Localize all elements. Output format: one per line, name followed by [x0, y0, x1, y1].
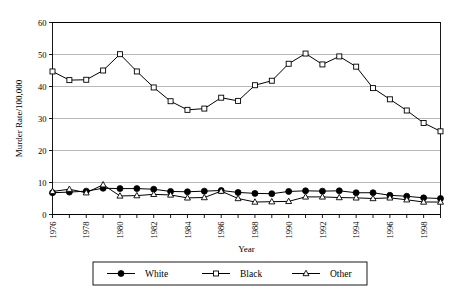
y-tick-label-60: 60 [38, 18, 47, 28]
datapoint-white-1989 [269, 191, 275, 197]
x-tick-label-1984: 1984 [183, 221, 193, 239]
y-axis-title: Murder Rate/100,000 [14, 79, 24, 157]
datapoint-black-1985 [202, 106, 207, 111]
x-tick-label-1976: 1976 [48, 222, 58, 239]
x-axis-title: Year [238, 244, 255, 254]
chart-figure: 0102030405060197619781980198219841986198… [0, 0, 449, 300]
datapoint-white-1981 [134, 186, 140, 192]
y-tick-label-40: 40 [38, 82, 47, 92]
x-tick-label-1998: 1998 [419, 222, 429, 239]
legend-label-white: White [145, 269, 168, 279]
datapoint-black-1976 [50, 69, 55, 74]
x-tick-label-1982: 1982 [149, 222, 159, 239]
x-tick-label-1990: 1990 [284, 222, 294, 239]
datapoint-white-1980 [117, 186, 123, 192]
x-axis: 1976197819801982198419861988199019921994… [48, 215, 441, 239]
y-tick-label-50: 50 [38, 50, 47, 60]
datapoint-other-1991 [303, 194, 309, 199]
datapoint-black-1989 [269, 78, 274, 83]
x-tick-label-1980: 1980 [115, 222, 125, 239]
datapoint-black-1984 [185, 107, 190, 112]
datapoint-white-1990 [286, 188, 292, 194]
datapoint-black-1987 [236, 98, 241, 103]
y-tick-label-0: 0 [42, 210, 46, 220]
datapoint-other-1992 [319, 194, 325, 199]
datapoint-white-1985 [201, 188, 207, 194]
series-black [50, 51, 443, 134]
datapoint-white-1988 [252, 190, 258, 196]
datapoint-black-1997 [404, 108, 409, 113]
datapoint-black-1992 [320, 62, 325, 67]
murder-rate-line-chart: 0102030405060197619781980198219841986198… [0, 0, 449, 300]
datapoint-black-1994 [354, 64, 359, 69]
legend-marker-black [214, 271, 219, 276]
datapoint-black-1978 [84, 77, 89, 82]
x-tick-label-1992: 1992 [318, 222, 328, 239]
datapoint-black-1990 [286, 61, 291, 66]
datapoint-black-1999 [438, 129, 443, 134]
x-tick-label-1986: 1986 [216, 222, 226, 239]
datapoint-black-1981 [134, 69, 139, 74]
legend-label-other: Other [330, 269, 352, 279]
datapoint-black-1991 [303, 51, 308, 56]
datapoint-white-1993 [336, 188, 342, 194]
y-tick-label-10: 10 [38, 178, 47, 188]
datapoint-black-1979 [101, 68, 106, 73]
datapoint-black-1995 [371, 86, 376, 91]
y-tick-label-20: 20 [38, 146, 47, 156]
y-axis: 0102030405060 [38, 18, 53, 220]
datapoint-black-1986 [219, 95, 224, 100]
y-tick-label-30: 30 [38, 114, 47, 124]
legend-marker-white [118, 271, 124, 277]
datapoint-black-1996 [387, 97, 392, 102]
datapoint-black-1980 [117, 52, 122, 57]
legend-label-black: Black [240, 269, 262, 279]
y-gridlines [53, 23, 441, 215]
datapoint-black-1998 [421, 120, 426, 125]
legend: WhiteBlackOther [93, 262, 367, 285]
datapoint-black-1977 [67, 78, 72, 83]
datapoint-black-1983 [168, 99, 173, 104]
datapoint-other-1982 [151, 191, 157, 196]
datapoint-black-1988 [252, 83, 257, 88]
x-tick-label-1996: 1996 [385, 222, 395, 239]
x-tick-label-1978: 1978 [81, 222, 91, 239]
x-tick-label-1988: 1988 [250, 222, 260, 239]
datapoint-black-1982 [151, 85, 156, 90]
series-white [50, 185, 444, 201]
datapoint-other-1977 [66, 186, 72, 191]
datapoint-black-1993 [337, 54, 342, 59]
x-tick-label-1994: 1994 [351, 221, 361, 239]
series-line-black [53, 54, 441, 132]
